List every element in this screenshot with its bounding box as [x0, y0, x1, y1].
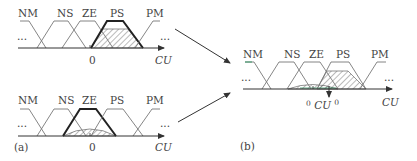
fuzzy-inference-diagram: NM NS ZE PS PM ... ... 0 CU NM NS ZE PS …	[0, 0, 417, 161]
arrow-top-to-combined	[175, 29, 230, 63]
axis-label-cu: CU	[155, 141, 173, 153]
top-membership-plot	[18, 21, 164, 48]
output-super: 0	[334, 98, 339, 107]
axis-label-cu: CU	[382, 96, 400, 108]
ze-clipped-area	[63, 129, 116, 136]
output-main: CU	[314, 99, 332, 111]
output-prefix: 0	[306, 99, 311, 108]
label-ze: ZE	[309, 48, 324, 60]
label-ps: PS	[336, 48, 350, 60]
label-ze: ZE	[82, 94, 97, 106]
label-ns: NS	[58, 94, 74, 106]
label-ps: PS	[110, 94, 124, 106]
label-ps: PS	[110, 7, 124, 19]
axis-label-cu: CU	[155, 54, 173, 66]
ellipsis-right: ...	[160, 117, 170, 129]
ellipsis-left: ...	[17, 117, 27, 129]
arrow-bottom-to-combined	[178, 93, 230, 122]
ellipsis-left: ...	[241, 71, 251, 83]
ps-clipped-area	[317, 71, 366, 89]
label-pm: PM	[146, 94, 164, 106]
panel-b-label: (b)	[240, 140, 255, 152]
bottom-membership-plot	[18, 109, 164, 136]
output-value-label: 0 CU 0	[306, 96, 339, 111]
combined-membership-plot	[243, 62, 392, 97]
ellipsis-left: ...	[17, 30, 27, 42]
zero-label: 0	[89, 54, 96, 66]
pm-curve	[133, 109, 160, 136]
label-ze: ZE	[82, 7, 97, 19]
ellipsis-right: ...	[160, 30, 170, 42]
label-pm: PM	[146, 7, 164, 19]
zero-label: 0	[89, 141, 96, 153]
ellipsis-right: ...	[384, 71, 394, 83]
label-pm: PM	[371, 48, 389, 60]
label-nm: NM	[18, 94, 38, 106]
label-nm: NM	[18, 7, 38, 19]
label-nm: NM	[243, 48, 263, 60]
label-ns: NS	[284, 48, 300, 60]
label-ns: NS	[57, 7, 73, 19]
ns-curve	[37, 21, 86, 48]
panel-a-label: (a)	[14, 141, 28, 153]
